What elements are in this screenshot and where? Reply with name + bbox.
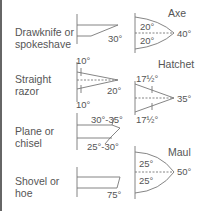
tool-label-shovel-hoe: Shovel or hoe [15, 175, 59, 199]
angle-hatchet-total: 35° [177, 93, 191, 104]
angle-shovel-bevel: 75° [107, 189, 121, 200]
tool-label-hatchet: Hatchet [158, 58, 194, 70]
angle-plane-top: 30°-35° [91, 114, 123, 125]
angle-axe-top: 20° [140, 21, 154, 32]
tool-label-drawknife: Drawknife or spokeshave [15, 26, 74, 50]
angle-maul-total: 50° [177, 166, 191, 177]
angle-axe-total: 40° [177, 28, 191, 39]
angle-axe-bottom: 20° [140, 35, 154, 46]
hatchet-diagram [135, 81, 174, 115]
angle-hatchet-top: 17½° [136, 73, 158, 84]
angle-maul-top: 25° [139, 158, 153, 169]
tool-label-plane-chisel: Plane or chisel [15, 125, 54, 149]
angle-hatchet-bottom: 17½° [136, 114, 158, 125]
angle-plane-bottom: 25°-30° [87, 141, 119, 152]
angle-razor-total: 20° [107, 85, 121, 96]
axe-diagram [135, 13, 174, 53]
angle-razor-top: 10° [76, 55, 90, 66]
angle-drawknife-bevel: 30° [108, 33, 122, 44]
angle-maul-bottom: 25° [139, 175, 153, 186]
tool-label-axe: Axe [168, 7, 186, 19]
straight-razor-diagram [77, 62, 118, 102]
angle-razor-bottom: 10° [76, 99, 90, 110]
tool-label-straight-razor: Straight razor [15, 73, 51, 97]
tool-label-maul: Maul [168, 146, 191, 158]
